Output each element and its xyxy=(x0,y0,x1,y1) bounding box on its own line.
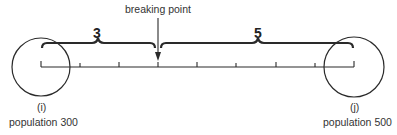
diagram-canvas xyxy=(0,0,397,135)
right-distance-label: 5 xyxy=(254,25,262,41)
breaking-point-label: breaking point xyxy=(125,3,191,15)
town-j-population: population 500 xyxy=(323,116,392,128)
axis-ticks xyxy=(41,61,354,67)
arrow-head-icon xyxy=(155,52,161,61)
town-i-label: (i) xyxy=(37,101,46,113)
left-distance-label: 3 xyxy=(93,25,101,41)
town-j-label: (j) xyxy=(350,101,359,113)
town-i-population: population 300 xyxy=(9,116,78,128)
